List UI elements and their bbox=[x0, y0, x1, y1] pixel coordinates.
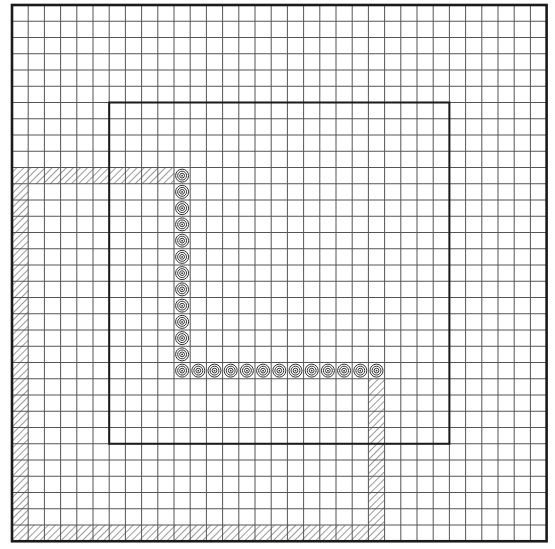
concentric-circle-icon bbox=[321, 364, 334, 377]
grid-lines bbox=[12, 5, 547, 541]
concentric-circle-icon bbox=[257, 364, 270, 377]
concentric-circle-icon bbox=[240, 364, 253, 377]
concentric-circle-icon bbox=[176, 218, 189, 231]
inner-square bbox=[109, 103, 449, 444]
concentric-circle-icon bbox=[176, 267, 189, 280]
concentric-circle-icon bbox=[176, 299, 189, 312]
concentric-circle-icon bbox=[176, 283, 189, 296]
outer-border bbox=[12, 5, 547, 541]
concentric-circle-icon bbox=[208, 364, 221, 377]
concentric-circle-icon bbox=[354, 364, 367, 377]
concentric-circle-icon bbox=[176, 332, 189, 345]
concentric-circle-icon bbox=[176, 250, 189, 263]
concentric-circle-icon bbox=[176, 202, 189, 215]
concentric-circle-icon bbox=[176, 169, 189, 182]
concentric-circle-icon bbox=[224, 364, 237, 377]
concentric-circle-icon bbox=[273, 364, 286, 377]
concentric-circle-icon bbox=[176, 185, 189, 198]
concentric-circle-icon bbox=[176, 234, 189, 247]
concentric-circle-icon bbox=[370, 364, 383, 377]
concentric-circle-icon bbox=[192, 364, 205, 377]
concentric-circle-icon bbox=[289, 364, 302, 377]
concentric-circle-icon bbox=[305, 364, 318, 377]
hatched-regions bbox=[12, 168, 385, 542]
concentric-circle-icon bbox=[338, 364, 351, 377]
concentric-circle-icon bbox=[176, 315, 189, 328]
concentric-circle-icon bbox=[176, 364, 189, 377]
right-hatched-column bbox=[368, 379, 384, 525]
grid-diagram bbox=[0, 0, 555, 549]
concentric-circle-icon bbox=[176, 348, 189, 361]
